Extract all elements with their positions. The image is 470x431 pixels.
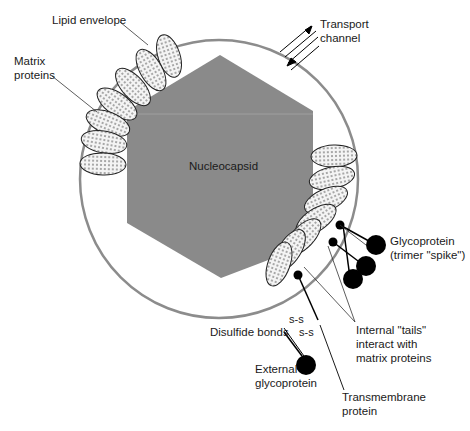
label-transport-channel-2: channel [320, 32, 360, 44]
label-transmembrane-1: Transmembrane [342, 391, 426, 403]
glycoprotein-spikes [329, 221, 387, 290]
glycoprotein-head [366, 235, 386, 255]
label-lipid-envelope: Lipid envelope [52, 14, 126, 26]
label-transmembrane-2: protein [342, 405, 377, 417]
label-external-glycoprotein-1: External [255, 363, 297, 375]
label-disulfide-bonds: Disulfide bonds [210, 326, 289, 338]
label-glycoprotein-1: Glycoprotein [390, 235, 455, 247]
label-ss-1: s-s [289, 313, 304, 325]
label-glycoprotein-2: (trimer "spike") [390, 249, 465, 261]
virus-structure-diagram: Lipid envelope Matrix proteins Transport… [0, 0, 470, 431]
label-internal-tails-3: matrix proteins [356, 352, 432, 364]
label-transport-channel-1: Transport [320, 18, 370, 30]
label-internal-tails-2: interact with [356, 338, 417, 350]
label-internal-tails-1: Internal "tails" [356, 324, 426, 336]
label-matrix-proteins-1: Matrix [14, 55, 46, 67]
transport-channel-icon [280, 26, 319, 70]
label-matrix-proteins-2: proteins [14, 69, 55, 81]
label-external-glycoprotein-2: glycoprotein [255, 377, 317, 389]
label-nucleocapsid: Nucleocapsid [189, 160, 258, 172]
label-ss-2: s-s [299, 326, 314, 338]
